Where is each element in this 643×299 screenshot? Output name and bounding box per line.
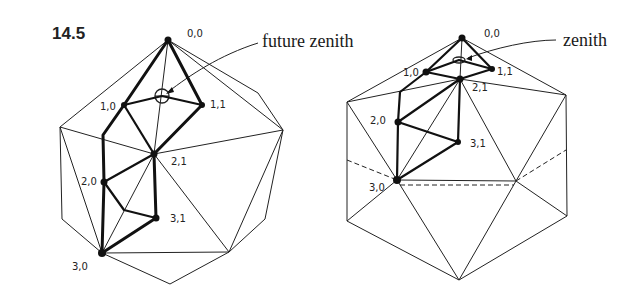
figure-14-5: 14.5 future zenith zenith <box>0 0 643 299</box>
right-label-2-0: 2,0 <box>370 115 386 126</box>
right-label-3-0: 3,0 <box>369 182 385 193</box>
right-label-2-1: 2,1 <box>472 82 488 93</box>
right-label-3-1: 3,1 <box>470 138 486 149</box>
left-label-1-1: 1,1 <box>210 99 226 110</box>
right-label-0-0: 0,0 <box>484 28 500 39</box>
left-label-3-0: 3,0 <box>72 261 88 272</box>
left-label-0-0: 0,0 <box>187 28 203 39</box>
left-label-3-1: 3,1 <box>170 213 186 224</box>
diagram-canvas: 0,0 1,0 1,1 2,0 2,1 3,0 3,1 <box>0 0 643 299</box>
left-polyhedron: 0,0 1,0 1,1 2,0 2,1 3,0 3,1 <box>60 28 283 284</box>
left-label-2-1: 2,1 <box>171 156 187 167</box>
left-label-2-0: 2,0 <box>81 176 97 187</box>
left-label-1-0: 1,0 <box>100 101 116 112</box>
right-label-1-1: 1,1 <box>497 66 513 77</box>
right-polyhedron: 0,0 1,0 1,1 2,0 2,1 3,0 3,1 <box>347 28 567 280</box>
right-label-1-0: 1,0 <box>403 67 419 78</box>
